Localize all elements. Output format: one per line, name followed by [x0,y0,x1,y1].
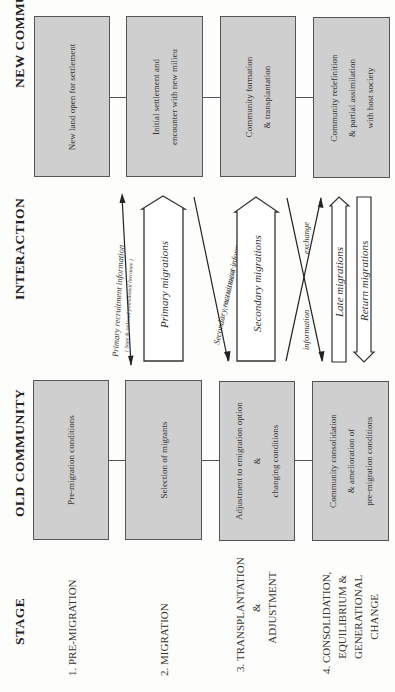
secondary-info-arrowhead-icon [224,351,231,362]
stage-number: 2. [158,668,170,676]
stage-1-label: 1. PRE-MIGRATION [64,579,80,676]
stage-line: PRE-MIGRATION [66,579,78,665]
primary-info-sublabel: ( State & railroad promotional literatur… [123,259,135,352]
exchange-right-label: exchange [301,222,311,254]
stage-number: 4. [320,666,332,674]
stage-line: GENERATIONAL [350,572,366,674]
stage-line: CONSOLIDATION, [320,572,332,663]
stage-line: MIGRATION [158,603,170,665]
stage-2-label: 2. MIGRATION [156,603,172,676]
secondary-info-line [194,197,228,361]
stage-line: & [248,557,264,672]
stage-number: 3. [234,664,246,672]
stage-number: 1. [66,668,78,676]
stage-line: ADJUSTMENT [264,557,280,672]
stage-4-label: 4. CONSOLIDATION, EQUILIBRIUM & GENERATI… [318,572,382,674]
primary-info-arrowhead-down-icon [128,356,134,367]
stage-3-label: 3. TRANSPLANTATION & ADJUSTMENT [232,557,280,672]
stage-line: EQUILIBRIUM & [334,572,350,674]
stage-line: CHANGE [366,572,382,674]
primary-migrations-label: Primary migrations [158,241,170,329]
migration-process-diagram: NEW COMMUNITY INTERACTION OLD COMMUNITY … [0,0,395,692]
return-migrations-label: Return migrations [358,241,370,322]
stage-line: TRANSPLANTATION [234,557,246,661]
secondary-migrations-label: Secondary migrations [251,235,263,332]
exchange-left-label: information [301,310,311,350]
exchange-up-arrowhead-icon [318,197,324,208]
primary-info-arrowhead-icon [120,193,126,203]
late-migrations-label: Late migrations [333,247,345,318]
